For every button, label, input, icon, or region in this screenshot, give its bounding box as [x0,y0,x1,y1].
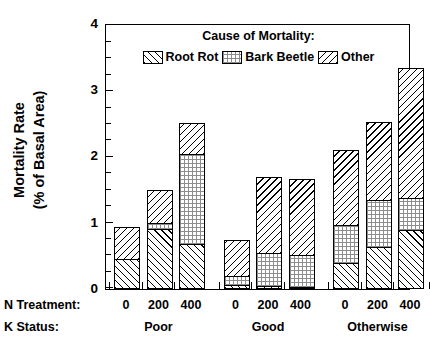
bar-0 [114,227,140,289]
plot-area: Cause of Mortality: Root Rot Bark Beetle… [105,24,410,290]
legend-title: Cause of Mortality: [126,29,391,43]
y-tick-major-2 [106,156,113,157]
y-tick-minor [106,123,111,124]
x-tick [393,282,394,289]
bar-segment-bark-beetle [367,200,391,247]
legend-swatch-bark-beetle-icon [222,51,242,64]
bar-segment-bark-beetle [180,154,204,244]
bar-segment-other [180,124,204,153]
x-tick [142,282,143,289]
bar-segment-other [334,151,358,226]
y-tick-minor [106,172,111,173]
y-tick-major-3 [106,90,113,91]
x-value-label-5: 400 [281,298,321,312]
y-tick-label-0: 0 [72,281,98,296]
x-tick [219,282,220,289]
y-axis-title: Mortality Rate (% of Basal Area) [0,0,70,300]
legend-item-bark-beetle: Bark Beetle [222,50,314,64]
y-tick-minor [106,254,111,255]
bar-segment-other [290,180,314,255]
y-tick-minor [106,205,111,206]
bar-segment-root-rot [115,259,139,288]
bar-segment-other [225,241,249,275]
y-axis-title-line-1: Mortality Rate [11,102,27,198]
bar-segment-bark-beetle [399,198,423,231]
y-tick-major-4 [106,24,113,25]
bar-segment-bark-beetle [257,253,281,286]
x-axis-row1-label: N Treatment: [4,298,80,312]
y-axis-title-line-2: (% of Basal Area) [31,91,47,210]
x-tick [361,282,362,289]
bar-2 [179,123,205,289]
y-tick-minor [106,107,111,108]
legend-label-bark-beetle: Bark Beetle [245,50,314,64]
y-tick-major-1 [106,222,113,223]
y-tick-minor [106,74,111,75]
bar-segment-root-rot [225,285,249,288]
y-tick-label-3: 3 [72,82,98,97]
legend-item-root-rot: Root Rot [143,50,219,64]
y-tick-minor [106,41,111,42]
bar-segment-root-rot [257,286,281,288]
bar-segment-bark-beetle [290,255,314,287]
bar-segment-other [115,228,139,259]
legend: Cause of Mortality: Root Rot Bark Beetle… [126,29,391,64]
x-tick [284,282,285,289]
x-tick [251,282,252,289]
bar-7 [366,122,392,289]
bar-segment-other [257,178,281,252]
bar-3 [224,240,250,289]
bar-5 [289,179,315,289]
y-tick-label-2: 2 [72,148,98,163]
bar-segment-other [399,69,423,198]
y-tick-minor [106,238,111,239]
x-value-label-8: 400 [390,298,430,312]
bar-segment-bark-beetle [225,276,249,285]
x-group-label-otherwise: Otherwise [333,320,423,334]
bar-segment-other [148,191,172,222]
legend-label-other: Other [341,50,374,64]
x-value-label-2: 400 [171,298,211,312]
y-tick-label-1: 1 [72,215,98,230]
bar-8 [398,68,424,289]
legend-swatch-root-rot-icon [143,51,163,64]
y-tick-minor [106,271,111,272]
bar-4 [256,177,282,289]
x-group-label-poor: Poor [114,320,204,334]
x-tick [174,282,175,289]
bar-segment-root-rot [367,247,391,288]
x-tick [328,282,329,289]
x-group-label-good: Good [223,320,313,334]
bar-segment-bark-beetle [334,225,358,262]
legend-label-root-rot: Root Rot [166,50,219,64]
x-tick [109,282,110,289]
bar-segment-root-rot [334,263,358,288]
x-axis-row2-label: K Status: [4,320,59,334]
bar-segment-root-rot [290,287,314,288]
legend-swatch-other-icon [318,51,338,64]
bar-segment-root-rot [148,229,172,288]
bar-6 [333,150,359,289]
y-tick-minor [106,139,111,140]
y-tick-label-4: 4 [72,16,98,31]
legend-item-other: Other [318,50,374,64]
bar-1 [147,190,173,289]
y-tick-minor [106,57,111,58]
bar-segment-root-rot [399,230,423,288]
bar-segment-other [367,123,391,200]
bar-segment-root-rot [180,244,204,288]
y-tick-minor [106,189,111,190]
